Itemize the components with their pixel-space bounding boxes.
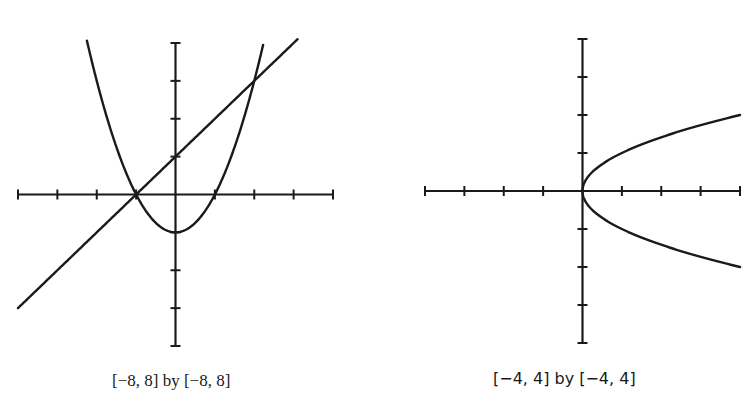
right-graph-window-caption: [−4, 4] by [−4, 4] <box>493 369 636 388</box>
graphs-canvas <box>0 0 755 418</box>
left-graph <box>18 39 333 346</box>
linear-curve <box>18 39 298 308</box>
upper-branch-curve <box>583 115 741 191</box>
lower-branch-curve <box>583 191 741 267</box>
left-graph-window-caption: [−8, 8] by [−8, 8] <box>112 371 230 391</box>
right-graph <box>425 39 740 343</box>
